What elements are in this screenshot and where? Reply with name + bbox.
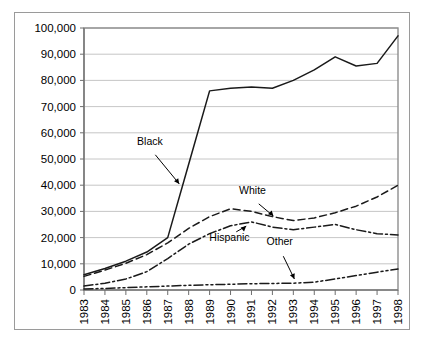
annotations-group: BlackWhiteHispanicOther bbox=[137, 135, 295, 279]
y-tick-label: 70,000 bbox=[41, 101, 76, 113]
y-tick-label: 80,000 bbox=[41, 74, 76, 86]
x-tick-label: 1994 bbox=[308, 298, 320, 324]
series-annotation-label: Hispanic bbox=[209, 231, 249, 243]
x-tick-label: 1993 bbox=[287, 299, 299, 325]
series-group bbox=[84, 36, 398, 289]
series-annotation-label: Black bbox=[137, 135, 163, 147]
x-tick-label: 1985 bbox=[120, 299, 132, 325]
x-tick-label: 1990 bbox=[225, 299, 237, 325]
series-annotation-label: White bbox=[239, 184, 266, 196]
series-line-other bbox=[84, 269, 398, 289]
y-tick-label: 100,000 bbox=[34, 22, 76, 34]
ytick-labels-group: 010,00020,00030,00040,00050,00060,00070,… bbox=[34, 22, 76, 296]
x-tick-label: 1992 bbox=[266, 299, 278, 325]
chart-figure: 010,00020,00030,00040,00050,00060,00070,… bbox=[0, 0, 423, 355]
line-chart: 010,00020,00030,00040,00050,00060,00070,… bbox=[0, 0, 423, 355]
x-tick-label: 1984 bbox=[99, 298, 111, 324]
x-tick-label: 1996 bbox=[350, 299, 362, 325]
x-tick-label: 1998 bbox=[392, 299, 404, 325]
x-tick-label: 1986 bbox=[141, 299, 153, 325]
xtick-labels-group: 1983198419851986198719881989199019911992… bbox=[78, 298, 404, 324]
y-tick-label: 50,000 bbox=[41, 153, 76, 165]
series-annotation-label: Other bbox=[267, 235, 294, 247]
y-tick-label: 30,000 bbox=[41, 205, 76, 217]
x-tick-label: 1991 bbox=[245, 299, 257, 325]
y-tick-label: 10,000 bbox=[41, 258, 76, 270]
x-tick-label: 1997 bbox=[371, 299, 383, 325]
x-tick-label: 1989 bbox=[204, 299, 216, 325]
x-tick-label: 1983 bbox=[78, 299, 90, 325]
y-tick-label: 90,000 bbox=[41, 48, 76, 60]
y-tick-label: 0 bbox=[70, 284, 76, 296]
x-tick-label: 1988 bbox=[183, 299, 195, 325]
x-tick-label: 1995 bbox=[329, 299, 341, 325]
y-tick-label: 20,000 bbox=[41, 232, 76, 244]
y-tick-label: 40,000 bbox=[41, 179, 76, 191]
y-tick-label: 60,000 bbox=[41, 127, 76, 139]
x-tick-label: 1987 bbox=[162, 299, 174, 325]
